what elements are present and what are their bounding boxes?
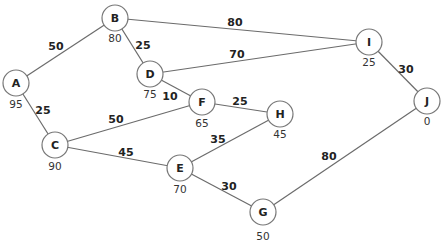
node-i: I25 [356, 29, 382, 68]
edge-weight-d-i: 70 [229, 48, 245, 61]
node-label: B [111, 12, 119, 25]
node-label: A [12, 77, 21, 90]
edge-weight-c-e: 45 [118, 146, 133, 159]
node-label: I [367, 36, 371, 49]
weighted-graph: 50252580701050452535303080 A95B80C90D75E… [0, 0, 445, 241]
node-value: 50 [256, 230, 269, 241]
node-value: 90 [48, 160, 61, 172]
edge-d-i [150, 42, 369, 74]
node-label: G [258, 206, 267, 219]
edge-weight-e-h: 35 [210, 133, 225, 146]
node-label: D [145, 68, 154, 81]
node-f: F65 [189, 89, 215, 129]
node-value: 25 [362, 56, 375, 68]
node-j: J0 [414, 88, 440, 127]
node-value: 95 [9, 98, 22, 110]
node-value: 75 [143, 88, 156, 100]
node-value: 45 [273, 128, 286, 140]
node-d: D75 [137, 61, 163, 100]
node-value: 70 [173, 183, 186, 195]
node-b: B80 [102, 5, 128, 44]
edge-a-b [16, 18, 115, 83]
edge-weight-a-b: 50 [48, 40, 64, 53]
node-label: E [176, 162, 184, 175]
node-label: J [424, 95, 429, 108]
node-e: E70 [167, 155, 193, 195]
edge-c-f [55, 102, 202, 145]
edge-weight-j-g: 80 [321, 150, 337, 163]
edge-weight-e-g: 30 [221, 180, 237, 193]
node-label: F [198, 96, 206, 109]
node-value: 65 [195, 117, 208, 129]
node-value: 80 [108, 32, 121, 44]
edge-weight-i-j: 30 [398, 63, 414, 76]
node-g: G50 [250, 199, 276, 241]
node-h: H45 [267, 101, 293, 140]
node-label: H [275, 108, 284, 121]
node-c: C90 [42, 132, 68, 172]
edge-weight-b-d: 25 [135, 39, 150, 52]
edge-weight-b-i: 80 [227, 16, 243, 29]
node-value: 0 [424, 115, 431, 127]
edge-weight-d-f: 10 [162, 90, 178, 103]
edge-weight-c-f: 50 [108, 113, 124, 126]
node-label: C [51, 139, 59, 152]
edge-weight-a-c: 25 [35, 104, 50, 117]
nodes-layer: A95B80C90D75E70F65G50H45I25J0 [3, 5, 440, 241]
edge-weight-f-h: 25 [232, 95, 247, 108]
node-a: A95 [3, 70, 29, 110]
